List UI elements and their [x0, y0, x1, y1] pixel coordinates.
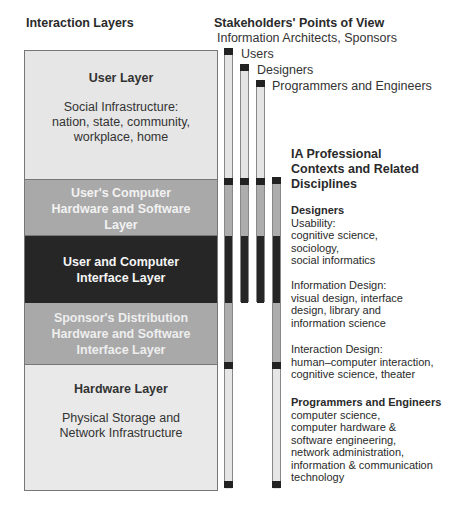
stakeholder-bar-ia-sponsors: [224, 48, 233, 488]
stakeholder-label-designers: Designers: [257, 63, 313, 77]
programmers-heading: Programmers and Engineers: [291, 396, 441, 409]
sponsor-distribution-layer: Sponsor's Distribution Hardware and Soft…: [25, 303, 217, 365]
information-design-context: Information Design: visual design, inter…: [291, 279, 403, 329]
user-layer-title: User Layer: [25, 70, 217, 86]
bar-cap-icon: [224, 48, 233, 55]
designers-context: Designers Usability: cognitive science, …: [291, 204, 378, 267]
hardware-layer-title: Hardware Layer: [25, 381, 217, 397]
interaction-layer-stack: User Layer Social Infrastructure: nation…: [24, 50, 218, 491]
interaction-layers-heading: Interaction Layers: [26, 16, 134, 30]
user-layer-desc: Social Infrastructure: nation, state, co…: [25, 100, 217, 145]
interaction-design-context: Interaction Design: human–computer inter…: [291, 343, 433, 381]
users-computer-layer: User's Computer Hardware and Software La…: [25, 180, 217, 236]
stakeholder-label-users: Users: [241, 47, 274, 61]
stakeholder-bar-programmers: [272, 177, 281, 488]
hardware-layer-desc: Physical Storage and Network Infrastruct…: [25, 411, 217, 441]
designers-heading: Designers: [291, 204, 378, 217]
stakeholder-bar-designers: [256, 80, 265, 302]
hardware-layer: Hardware Layer Physical Storage and Netw…: [25, 365, 217, 490]
stakeholder-bar-users: [240, 64, 249, 302]
user-computer-interface-layer: User and Computer Interface Layer: [25, 236, 217, 303]
user-layer: User Layer Social Infrastructure: nation…: [25, 51, 217, 180]
programmers-context: Programmers and Engineers computer scien…: [291, 396, 441, 484]
stakeholder-label-ia-sponsors: Information Architects, Sponsors: [217, 31, 397, 45]
contexts-heading: IA Professional Contexts and Related Dis…: [291, 147, 419, 192]
stakeholders-heading: Stakeholders' Points of View: [214, 16, 384, 30]
stakeholder-label-programmers: Programmers and Engineers: [272, 79, 432, 93]
